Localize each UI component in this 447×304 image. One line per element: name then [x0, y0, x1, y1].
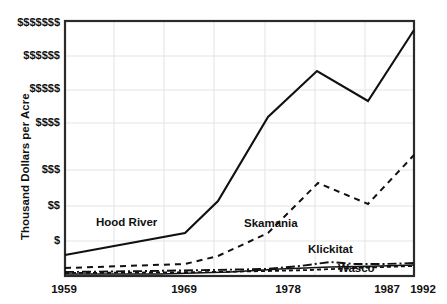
series-label-skamania: Skamania	[244, 217, 298, 229]
series-label-wasco: Wasco	[338, 262, 375, 274]
x-tick-label-1992: 1992	[410, 283, 436, 295]
y-tick-label-1: $	[54, 234, 60, 246]
y-tick-label-3: $$$	[42, 163, 60, 175]
x-tick-label-1987: 1987	[374, 283, 400, 295]
line-chart-svg: Thousand Dollars per Acre $$$$$$$ $$$$$$…	[0, 0, 447, 304]
x-tick-label-1969: 1969	[171, 283, 197, 295]
series-label-hood-river: Hood River	[96, 216, 158, 228]
series-label-klickitat: Klickitat	[308, 243, 353, 255]
x-tick-label-1978: 1978	[275, 283, 301, 295]
y-tick-label-7: $$$$$$$	[17, 16, 60, 28]
y-tick-label-5: $$$$$	[29, 82, 60, 94]
chart-background	[0, 0, 447, 304]
x-tick-label-1959: 1959	[51, 283, 77, 295]
y-tick-label-6: $$$$$$	[23, 49, 60, 61]
y-tick-label-4: $$$$	[36, 116, 60, 128]
chart-figure: Thousand Dollars per Acre $$$$$$$ $$$$$$…	[0, 0, 447, 304]
y-tick-label-2: $$	[48, 199, 60, 211]
y-axis-title: Thousand Dollars per Acre	[19, 93, 31, 240]
